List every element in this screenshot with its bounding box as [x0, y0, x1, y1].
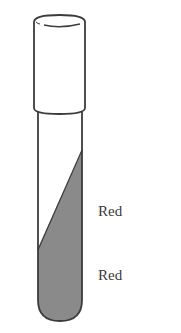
- slant-label: Red: [98, 204, 122, 219]
- test-tube: [38, 112, 82, 321]
- test-tube-diagram: [0, 0, 181, 333]
- butt-label: Red: [98, 268, 122, 283]
- tube-cap: [34, 15, 85, 114]
- cap-body: [34, 15, 85, 114]
